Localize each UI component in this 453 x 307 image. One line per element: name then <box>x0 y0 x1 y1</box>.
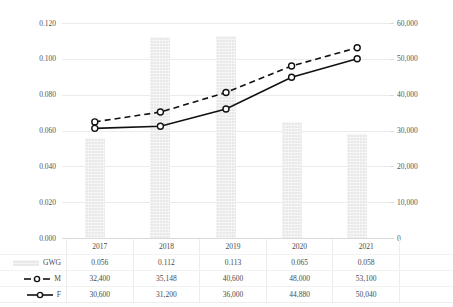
axis-tick <box>390 238 394 239</box>
table-spacer-cell <box>399 255 453 271</box>
right-axis-tick-label: 50,000 <box>397 54 443 63</box>
legend-row-m: M <box>0 271 67 287</box>
right-axis-tick-label: 20,000 <box>397 162 443 171</box>
m-value-cell: 35,148 <box>133 271 200 287</box>
table-row: 20172018201920202021 <box>0 239 453 255</box>
f-value-cell: 36,000 <box>200 287 267 303</box>
f-value-cell: 50,040 <box>333 287 400 303</box>
right-axis-tick-label: 40,000 <box>397 90 443 99</box>
table-row: GWG0.0560.1120.1130.0650.058 <box>0 255 453 271</box>
gwg-value-cell: 0.058 <box>333 255 400 271</box>
legend-label-f: F <box>57 290 61 299</box>
legend-row-gwg: GWG <box>0 255 67 271</box>
data-table: 20172018201920202021GWG0.0560.1120.1130.… <box>0 239 453 303</box>
line-series-layer <box>62 23 390 238</box>
left-axis-tick-label: 0.040 <box>0 162 56 171</box>
f-value-cell: 44,880 <box>266 287 333 303</box>
legend-swatch-f <box>27 291 53 299</box>
legend-row-f: F <box>0 287 67 303</box>
left-axis-tick-label: 0.080 <box>0 90 56 99</box>
m-value-cell: 48,000 <box>266 271 333 287</box>
year-header-cell: 2017 <box>67 239 134 255</box>
year-header-cell: 2021 <box>333 239 400 255</box>
chart-title <box>0 0 443 3</box>
axis-tick <box>390 59 394 60</box>
data-point-marker-m <box>289 63 295 69</box>
f-value-cell: 30,600 <box>67 287 134 303</box>
table-corner-cell <box>0 239 67 255</box>
right-axis-tick-label: 30,000 <box>397 126 443 135</box>
gwg-value-cell: 0.112 <box>133 255 200 271</box>
left-axis-tick-label: 0.120 <box>0 19 56 28</box>
table-row: F30,60031,20036,00044,88050,040 <box>0 287 453 303</box>
table-spacer-cell <box>399 239 453 255</box>
left-axis-tick-label: 0.100 <box>0 54 56 63</box>
data-point-marker-m <box>92 119 98 125</box>
gwg-value-cell: 0.056 <box>67 255 134 271</box>
f-value-cell: 31,200 <box>133 287 200 303</box>
legend-label-m: M <box>54 274 61 283</box>
axis-tick <box>390 166 394 167</box>
data-point-marker-m <box>354 45 360 51</box>
m-value-cell: 32,400 <box>67 271 134 287</box>
axis-tick <box>390 23 394 24</box>
left-axis-tick-label: 0.020 <box>0 198 56 207</box>
year-header-cell: 2020 <box>266 239 333 255</box>
legend-swatch-bar <box>13 260 39 266</box>
data-point-marker-f <box>157 123 163 129</box>
year-header-cell: 2018 <box>133 239 200 255</box>
table-row: M32,40035,14840,60048,00053,100 <box>0 271 453 287</box>
left-axis-tick-label: 0.060 <box>0 126 56 135</box>
data-point-marker-f <box>354 56 360 62</box>
gwg-value-cell: 0.113 <box>200 255 267 271</box>
table-spacer-cell <box>399 271 453 287</box>
data-point-marker-f <box>223 106 229 112</box>
year-header-cell: 2019 <box>200 239 267 255</box>
data-point-marker-f <box>92 125 98 131</box>
legend-swatch-m <box>24 275 50 283</box>
legend-label-gwg: GWG <box>43 258 61 267</box>
axis-tick <box>390 95 394 96</box>
data-point-marker-m <box>157 109 163 115</box>
data-point-marker-f <box>289 74 295 80</box>
right-axis-tick-label: 60,000 <box>397 19 443 28</box>
m-value-cell: 40,600 <box>200 271 267 287</box>
gwg-value-cell: 0.065 <box>266 255 333 271</box>
data-point-marker-m <box>223 90 229 96</box>
table-spacer-cell <box>399 287 453 303</box>
right-axis-tick-label: 10,000 <box>397 198 443 207</box>
m-value-cell: 53,100 <box>333 271 400 287</box>
axis-tick <box>390 202 394 203</box>
axis-tick <box>390 131 394 132</box>
plot-area <box>62 23 390 238</box>
